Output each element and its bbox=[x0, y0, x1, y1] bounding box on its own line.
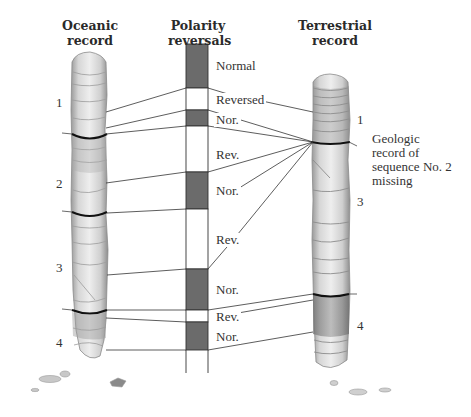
terrestrial-record-header: Terrestrial record bbox=[295, 18, 375, 48]
polarity-segment-reversed bbox=[186, 310, 208, 322]
polarity-label-reversed: Rev. bbox=[214, 233, 241, 247]
terrestrial-sequence-number: 3 bbox=[357, 194, 364, 210]
paleomagnetic-correlation-diagram: Oceanic record Polarity reversals Terres… bbox=[0, 0, 471, 417]
annotation-line: sequence No. 2 bbox=[372, 160, 452, 174]
missing-sequence-annotation: Geologic record of sequence No. 2 missin… bbox=[372, 132, 452, 188]
polarity-segment-normal bbox=[186, 322, 208, 350]
annotation-line: Geologic bbox=[372, 132, 452, 146]
polarity-segment-reversed bbox=[186, 126, 208, 172]
polarity-label-normal: Nor. bbox=[214, 330, 241, 344]
annotation-line: record of bbox=[372, 146, 452, 160]
polarity-label-normal: Nor. bbox=[214, 184, 241, 198]
polarity-label-reversed: Reversed bbox=[214, 93, 266, 107]
oceanic-core bbox=[31, 52, 126, 392]
polarity-bar bbox=[186, 44, 208, 373]
terrestrial-core bbox=[311, 74, 391, 395]
oceanic-sequence-number: 1 bbox=[56, 95, 63, 111]
polarity-label-reversed: Rev. bbox=[214, 310, 241, 324]
annotation-line: missing bbox=[372, 174, 452, 188]
polarity-segment-reversed bbox=[186, 209, 208, 269]
polarity-label-normal: Nor. bbox=[214, 113, 241, 127]
header-line: record bbox=[295, 33, 375, 48]
header-line: Terrestrial bbox=[295, 18, 375, 33]
oceanic-sequence-number: 3 bbox=[56, 260, 63, 276]
header-line: Oceanic bbox=[62, 18, 118, 33]
terrestrial-sequence-number: 4 bbox=[357, 318, 364, 334]
polarity-segment-normal bbox=[186, 110, 208, 126]
oceanic-record-header: Oceanic record bbox=[62, 18, 118, 48]
polarity-segment-normal bbox=[186, 44, 208, 88]
header-line: reversals bbox=[168, 33, 228, 48]
polarity-label-reversed: Rev. bbox=[214, 148, 241, 162]
oceanic-sequence-number: 2 bbox=[56, 176, 63, 192]
oceanic-sequence-number: 4 bbox=[56, 335, 63, 351]
polarity-label-normal: Nor. bbox=[214, 283, 241, 297]
polarity-label-normal: Normal bbox=[214, 59, 258, 73]
polarity-segment-normal bbox=[186, 269, 208, 310]
header-line: Polarity bbox=[168, 18, 228, 33]
terrestrial-sequence-number: 1 bbox=[357, 112, 364, 128]
oceanic-correlation-lines bbox=[106, 88, 186, 350]
polarity-segment-normal bbox=[186, 172, 208, 209]
polarity-segment-reversed bbox=[186, 88, 208, 110]
polarity-reversals-header: Polarity reversals bbox=[168, 18, 228, 48]
header-line: record bbox=[62, 33, 118, 48]
